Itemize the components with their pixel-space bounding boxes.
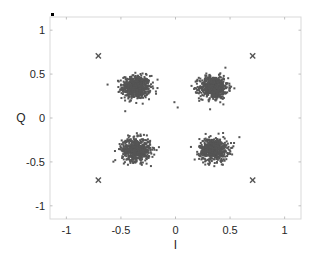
symbol-point: [224, 156, 226, 158]
symbol-point: [222, 84, 224, 86]
symbol-point: [144, 159, 146, 161]
symbol-point: [225, 146, 227, 148]
symbol-point: [190, 146, 192, 148]
symbol-point: [140, 83, 142, 85]
symbol-point: [136, 132, 138, 134]
symbol-point: [198, 92, 200, 94]
symbol-point: [210, 142, 212, 144]
symbol-point: [139, 159, 141, 161]
symbol-point: [143, 142, 145, 144]
symbol-point: [128, 78, 130, 80]
symbol-point: [191, 85, 193, 87]
symbol-point: [133, 158, 135, 160]
symbol-point: [128, 96, 130, 98]
symbol-point: [114, 150, 116, 152]
symbol-point: [128, 89, 130, 91]
symbol-point: [123, 158, 125, 160]
symbol-point: [198, 97, 200, 99]
symbol-point: [231, 153, 233, 155]
symbol-point: [212, 98, 214, 100]
symbol-point: [213, 144, 215, 146]
symbol-point: [216, 93, 218, 95]
symbol-point: [196, 83, 198, 85]
symbol-point: [141, 146, 143, 148]
symbol-point: [127, 154, 129, 156]
symbol-point: [219, 142, 221, 144]
symbol-point: [134, 72, 136, 74]
symbol-point: [133, 139, 135, 141]
symbol-point: [120, 148, 122, 150]
symbol-point: [221, 79, 223, 81]
symbol-point: [224, 67, 226, 69]
symbol-point: [147, 82, 149, 84]
symbol-point: [202, 84, 204, 86]
symbol-point: [137, 134, 139, 136]
symbol-point: [133, 82, 135, 84]
symbol-point: [233, 142, 235, 144]
symbol-point: [150, 165, 152, 167]
symbol-point: [215, 77, 217, 79]
symbol-point: [134, 92, 136, 94]
symbol-point: [156, 149, 158, 151]
symbol-point: [149, 90, 151, 92]
symbol-point: [144, 139, 146, 141]
symbol-point: [205, 155, 207, 157]
symbol-point: [209, 97, 211, 99]
symbol-point: [219, 92, 221, 94]
symbol-point: [205, 138, 207, 140]
symbol-point: [145, 96, 147, 98]
symbol-point: [133, 89, 135, 91]
symbol-point: [222, 103, 224, 105]
symbol-point: [216, 87, 218, 89]
symbol-point: [146, 91, 148, 93]
x-tick-label: 0: [172, 224, 178, 236]
symbol-point: [209, 146, 211, 148]
symbol-point: [135, 84, 137, 86]
symbol-point: [207, 139, 209, 141]
symbol-point: [209, 91, 211, 93]
symbol-point: [199, 86, 201, 88]
symbol-point: [127, 98, 129, 100]
symbol-point: [220, 158, 222, 160]
symbol-point: [141, 78, 143, 80]
symbol-point: [149, 148, 151, 150]
symbol-point: [150, 151, 152, 153]
symbol-point: [147, 141, 149, 143]
symbol-point: [214, 94, 216, 96]
symbol-point: [210, 157, 212, 159]
symbol-point: [122, 77, 124, 79]
symbol-point: [207, 83, 209, 85]
symbol-point: [147, 149, 149, 151]
symbol-point: [212, 82, 214, 84]
x-tick-label: 0.5: [222, 224, 237, 236]
symbol-point: [139, 87, 141, 89]
symbol-point: [202, 99, 204, 101]
symbol-point: [124, 110, 126, 112]
symbol-point: [139, 145, 141, 147]
symbol-point: [138, 92, 140, 94]
symbol-point: [137, 75, 139, 77]
symbol-point: [124, 96, 126, 98]
symbol-point: [228, 83, 230, 85]
symbol-point: [213, 80, 215, 82]
symbol-point: [140, 90, 142, 92]
symbol-point: [123, 91, 125, 93]
symbol-point: [204, 142, 206, 144]
symbol-point: [173, 101, 175, 103]
symbol-point: [124, 82, 126, 84]
symbol-point: [209, 74, 211, 76]
symbol-point: [229, 149, 231, 151]
symbol-point: [219, 72, 221, 74]
symbol-point: [196, 80, 198, 82]
symbol-point: [209, 155, 211, 157]
symbol-point: [137, 83, 139, 85]
symbol-point: [130, 86, 132, 88]
symbol-point: [135, 102, 137, 104]
symbol-point: [207, 150, 209, 152]
symbol-point: [121, 147, 123, 149]
symbol-point: [140, 135, 142, 137]
symbol-point: [140, 157, 142, 159]
symbol-point: [134, 95, 136, 97]
symbol-point: [204, 164, 206, 166]
symbol-point: [114, 159, 116, 161]
